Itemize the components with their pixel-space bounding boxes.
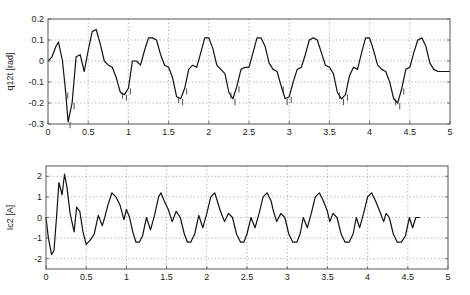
svg-text:4: 4: [365, 272, 370, 282]
svg-text:-0.2: -0.2: [28, 98, 44, 108]
y-axis-label: Ic2 [A]: [5, 205, 15, 231]
x-tick-labels: 00.511.522.533.544.55: [45, 121, 452, 137]
svg-text:-0.3: -0.3: [28, 119, 44, 129]
svg-text:0.2: 0.2: [31, 14, 44, 24]
svg-text:2.5: 2.5: [241, 272, 254, 282]
svg-text:3: 3: [285, 272, 290, 282]
svg-text:-1: -1: [34, 233, 42, 243]
figure: 00.511.522.533.544.550.20.10-0.1-0.2-0.3…: [0, 0, 470, 295]
svg-text:2: 2: [206, 127, 211, 137]
svg-text:0.5: 0.5: [80, 272, 93, 282]
x-tick-labels: 00.511.522.533.544.55: [43, 266, 450, 282]
y-axis-label: q12t [rad]: [5, 52, 15, 90]
svg-text:2: 2: [204, 272, 209, 282]
axes-frame: [48, 19, 450, 124]
svg-text:0.1: 0.1: [31, 35, 44, 45]
svg-text:5: 5: [445, 272, 450, 282]
top-plot: 00.511.522.533.544.550.20.10-0.1-0.2-0.3…: [5, 14, 453, 137]
series-line: [46, 174, 420, 254]
svg-text:4.5: 4.5: [402, 272, 415, 282]
svg-text:0.5: 0.5: [82, 127, 95, 137]
svg-text:4.5: 4.5: [404, 127, 417, 137]
svg-text:3: 3: [287, 127, 292, 137]
svg-text:-0.1: -0.1: [28, 77, 44, 87]
y-tick-labels: 0.20.10-0.1-0.2-0.3: [28, 14, 450, 129]
svg-text:1: 1: [124, 272, 129, 282]
svg-text:2.5: 2.5: [243, 127, 256, 137]
series-line: [48, 30, 450, 122]
svg-text:2: 2: [37, 171, 42, 181]
grid: [46, 166, 448, 269]
svg-text:1.5: 1.5: [160, 272, 173, 282]
svg-text:4: 4: [367, 127, 372, 137]
svg-text:1.5: 1.5: [162, 127, 175, 137]
svg-text:0: 0: [39, 56, 44, 66]
svg-text:0: 0: [43, 272, 48, 282]
grid: [48, 19, 450, 124]
svg-text:3.5: 3.5: [323, 127, 336, 137]
svg-text:5: 5: [447, 127, 452, 137]
svg-text:3.5: 3.5: [321, 272, 334, 282]
svg-text:-2: -2: [34, 254, 42, 264]
svg-text:1: 1: [126, 127, 131, 137]
noise-spikes: [68, 86, 404, 128]
svg-text:1: 1: [37, 192, 42, 202]
svg-text:0: 0: [37, 213, 42, 223]
bottom-plot: 00.511.522.533.544.55210-1-2Ic2 [A]: [5, 166, 451, 282]
svg-text:0: 0: [45, 127, 50, 137]
